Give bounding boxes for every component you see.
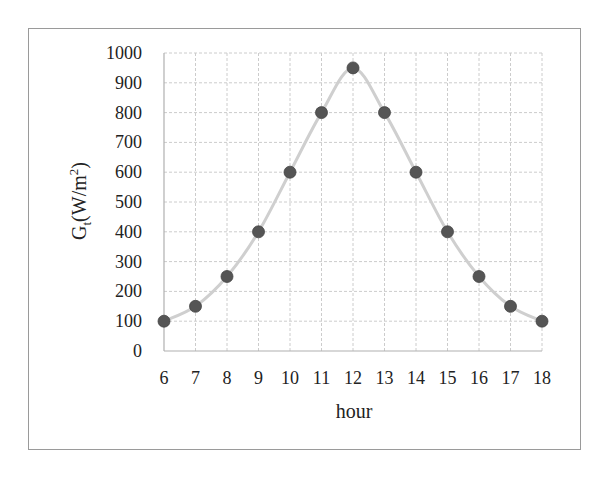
y-label-close: ) — [68, 162, 91, 169]
y-label-main: G — [68, 226, 90, 240]
y-tick-label: 800 — [115, 103, 142, 123]
x-tick-label: 14 — [407, 368, 425, 388]
data-point — [253, 226, 265, 238]
y-tick-label: 900 — [115, 73, 142, 93]
data-point — [316, 107, 328, 119]
data-point — [473, 271, 485, 283]
x-axis-label: hour — [336, 400, 373, 422]
data-point — [442, 226, 454, 238]
data-point — [347, 62, 359, 74]
x-tick-label: 11 — [313, 368, 330, 388]
x-tick-label: 17 — [502, 368, 520, 388]
y-tick-label: 700 — [115, 132, 142, 152]
data-point — [190, 300, 202, 312]
x-tick-label: 7 — [191, 368, 200, 388]
x-tick-label: 6 — [160, 368, 169, 388]
data-point — [379, 107, 391, 119]
y-tick-label: 500 — [115, 192, 142, 212]
y-tick-label: 100 — [115, 311, 142, 331]
y-tick-label: 0 — [133, 341, 142, 361]
data-point — [536, 315, 548, 327]
data-point — [505, 300, 517, 312]
y-tick-label: 300 — [115, 252, 142, 272]
x-tick-label: 8 — [223, 368, 232, 388]
data-point — [284, 166, 296, 178]
x-tick-label: 15 — [439, 368, 457, 388]
x-tick-label: 13 — [376, 368, 394, 388]
y-tick-label: 400 — [115, 222, 142, 242]
y-tick-labels: 01002003004005006007008009001000 — [106, 43, 142, 361]
y-tick-label: 1000 — [106, 43, 142, 63]
x-tick-label: 10 — [281, 368, 299, 388]
x-tick-label: 9 — [254, 368, 263, 388]
data-point — [158, 315, 170, 327]
line-chart: 01002003004005006007008009001000 6789101… — [0, 0, 608, 477]
data-point — [410, 166, 422, 178]
x-tick-label: 12 — [344, 368, 362, 388]
y-axis-label: Gt(W/m2) — [66, 162, 94, 240]
gridlines — [164, 53, 542, 351]
y-label-unit: (W/m — [68, 175, 91, 222]
x-tick-label: 16 — [470, 368, 488, 388]
y-tick-label: 200 — [115, 281, 142, 301]
data-point — [221, 271, 233, 283]
x-tick-labels: 6789101112131415161718 — [160, 368, 552, 388]
x-tick-label: 18 — [533, 368, 551, 388]
y-tick-label: 600 — [115, 162, 142, 182]
